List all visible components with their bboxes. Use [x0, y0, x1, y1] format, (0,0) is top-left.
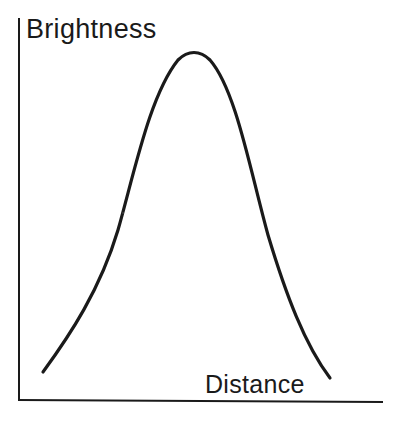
y-axis-label: Brightness [26, 14, 157, 45]
speck-mark [122, 212, 124, 214]
brightness-distance-chart: Brightness Distance [0, 0, 403, 421]
chart-canvas [0, 0, 403, 421]
x-axis-line [18, 400, 383, 402]
x-axis-label: Distance [205, 370, 305, 399]
brightness-curve [43, 53, 330, 379]
